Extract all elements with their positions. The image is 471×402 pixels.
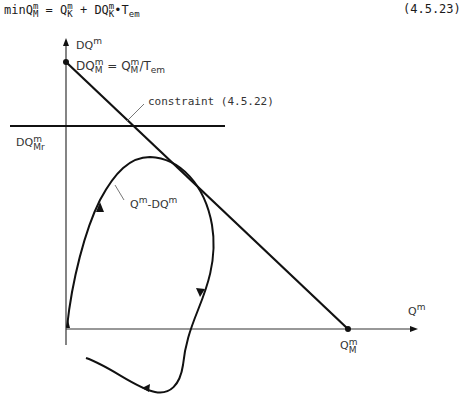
intercept-div: /T	[139, 59, 150, 73]
curve-label: Qm-DQm	[130, 195, 177, 211]
diagram-canvas	[0, 0, 471, 402]
y-axis-label: DQm	[76, 36, 102, 52]
intercept-lhs: DQ	[76, 59, 95, 73]
trajectory-curve	[67, 157, 214, 393]
x-intercept-label-sub: M	[349, 346, 358, 354]
arrow-left-icon	[142, 384, 150, 392]
intercept-rhs: Q	[121, 59, 130, 73]
constraint-label: constraint (4.5.22)	[148, 95, 274, 108]
limit-label: DQmMr	[16, 135, 45, 151]
limit-label-sub: Mr	[33, 143, 44, 151]
x-axis-label-sup: m	[417, 302, 426, 312]
curve-label-a: Q	[130, 198, 139, 211]
intercept-div-sub: em	[151, 65, 165, 75]
intercept-eq: =	[103, 59, 121, 73]
limit-label-base: DQ	[16, 136, 33, 149]
x-intercept-label: QmM	[340, 338, 357, 354]
limit-label-scripts: mMr	[33, 135, 44, 151]
x-intercept-label-scripts: mM	[349, 338, 358, 354]
intercept-label: DQmM = QmM/Tem	[76, 58, 165, 75]
curve-label-b: DQ	[151, 198, 168, 211]
curve-label-b-sup: m	[169, 195, 178, 205]
constraint-leader	[127, 104, 144, 121]
x-axis-label: Qm	[408, 302, 425, 318]
y-axis-label-base: DQ	[76, 39, 93, 52]
x-intercept-point	[345, 326, 351, 332]
x-intercept-label-base: Q	[340, 339, 349, 352]
x-axis-label-base: Q	[408, 305, 417, 318]
y-axis-label-sup: m	[93, 36, 102, 46]
y-intercept-point	[63, 59, 69, 65]
curve-leader	[115, 185, 124, 200]
